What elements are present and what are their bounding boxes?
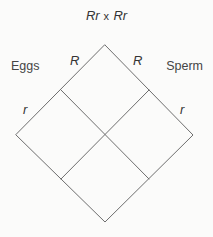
- allele-label-sperm-dominant: R: [133, 54, 142, 67]
- allele-label-egg-dominant: R: [70, 54, 79, 67]
- eggs-axis-label: Eggs: [11, 60, 40, 73]
- parent-two-genotype: Rr: [113, 8, 127, 23]
- allele-label-sperm-recessive: r: [180, 103, 184, 116]
- cross-title: RrxRr: [0, 9, 213, 22]
- cross-operator: x: [100, 10, 114, 22]
- punnett-square-grid: [0, 0, 213, 237]
- punnett-square-diagram: RrxRr Eggs Sperm R r R r: [0, 0, 213, 237]
- parent-one-genotype: Rr: [86, 8, 100, 23]
- sperm-axis-label: Sperm: [166, 60, 203, 73]
- allele-label-egg-recessive: r: [23, 103, 27, 116]
